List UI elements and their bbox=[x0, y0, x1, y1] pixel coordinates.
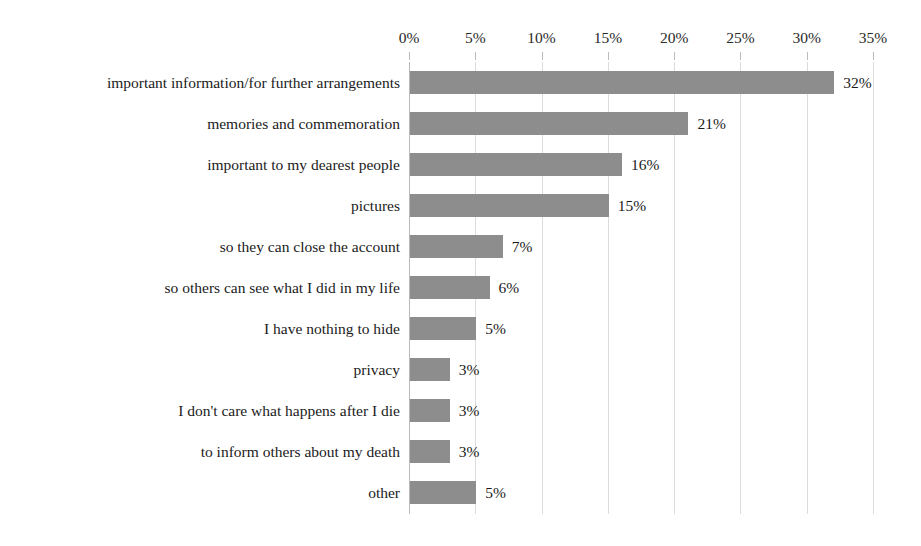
category-label: important to my dearest people bbox=[0, 154, 400, 175]
bar-value-label: 7% bbox=[512, 236, 533, 257]
bar-row: 5% bbox=[409, 308, 873, 349]
bar-row: 5% bbox=[409, 472, 873, 513]
bar-value-label: 15% bbox=[618, 195, 646, 216]
bar-row: 7% bbox=[409, 226, 873, 267]
bar[interactable] bbox=[410, 358, 450, 381]
bar-value-label: 6% bbox=[499, 277, 520, 298]
bar[interactable] bbox=[410, 235, 503, 258]
x-axis-tick-mark bbox=[674, 52, 675, 60]
bar-row: 3% bbox=[409, 349, 873, 390]
gridline bbox=[873, 62, 874, 514]
x-axis-tick-label: 30% bbox=[792, 28, 820, 47]
bar-value-label: 3% bbox=[459, 359, 480, 380]
bar-row: 3% bbox=[409, 431, 873, 472]
x-axis-tick-mark bbox=[873, 52, 874, 60]
x-axis-tick-mark bbox=[542, 52, 543, 60]
x-axis-tick-mark bbox=[475, 52, 476, 60]
category-label: to inform others about my death bbox=[0, 441, 400, 462]
bar-row: 6% bbox=[409, 267, 873, 308]
bar[interactable] bbox=[410, 71, 834, 94]
bar[interactable] bbox=[410, 481, 476, 504]
bar-value-label: 16% bbox=[631, 154, 659, 175]
plot-area: 32%21%16%15%7%6%5%3%3%3%5% bbox=[409, 62, 873, 514]
bar-row: 3% bbox=[409, 390, 873, 431]
category-label: so others can see what I did in my life bbox=[0, 277, 400, 298]
bar-value-label: 5% bbox=[485, 482, 506, 503]
bar-value-label: 5% bbox=[485, 318, 506, 339]
x-axis-tick-mark bbox=[409, 52, 410, 60]
category-label: I have nothing to hide bbox=[0, 318, 400, 339]
x-axis-tick-label: 35% bbox=[859, 28, 887, 47]
category-label: other bbox=[0, 482, 400, 503]
category-axis-labels: important information/for further arrang… bbox=[0, 62, 400, 514]
x-axis-tick-label: 5% bbox=[465, 28, 486, 47]
bar-row: 32% bbox=[409, 62, 873, 103]
bar-chart: 0%5%10%15%20%25%30%35% 32%21%16%15%7%6%5… bbox=[0, 0, 921, 546]
bar-row: 15% bbox=[409, 185, 873, 226]
bar-value-label: 3% bbox=[459, 400, 480, 421]
bar-value-label: 3% bbox=[459, 441, 480, 462]
x-axis: 0%5%10%15%20%25%30%35% bbox=[409, 28, 873, 62]
bar[interactable] bbox=[410, 399, 450, 422]
bar[interactable] bbox=[410, 317, 476, 340]
bar-value-label: 32% bbox=[843, 72, 871, 93]
x-axis-tick-label: 25% bbox=[726, 28, 754, 47]
bar[interactable] bbox=[410, 194, 609, 217]
category-label: pictures bbox=[0, 195, 400, 216]
bar-row: 21% bbox=[409, 103, 873, 144]
bar-value-label: 21% bbox=[697, 113, 725, 134]
x-axis-tick-label: 15% bbox=[594, 28, 622, 47]
category-label: so they can close the account bbox=[0, 236, 400, 257]
bar[interactable] bbox=[410, 112, 688, 135]
bar-row: 16% bbox=[409, 144, 873, 185]
bar-rows: 32%21%16%15%7%6%5%3%3%3%5% bbox=[409, 62, 873, 514]
x-axis-tick-mark bbox=[740, 52, 741, 60]
bar[interactable] bbox=[410, 276, 490, 299]
bar[interactable] bbox=[410, 153, 622, 176]
x-axis-tick-mark bbox=[608, 52, 609, 60]
category-label: important information/for further arrang… bbox=[0, 72, 400, 93]
category-label: I don't care what happens after I die bbox=[0, 400, 400, 421]
category-label: privacy bbox=[0, 359, 400, 380]
x-axis-tick-label: 20% bbox=[660, 28, 688, 47]
bar[interactable] bbox=[410, 440, 450, 463]
x-axis-tick-label: 10% bbox=[527, 28, 555, 47]
x-axis-tick-label: 0% bbox=[399, 28, 420, 47]
category-label: memories and commemoration bbox=[0, 113, 400, 134]
x-axis-tick-mark bbox=[807, 52, 808, 60]
